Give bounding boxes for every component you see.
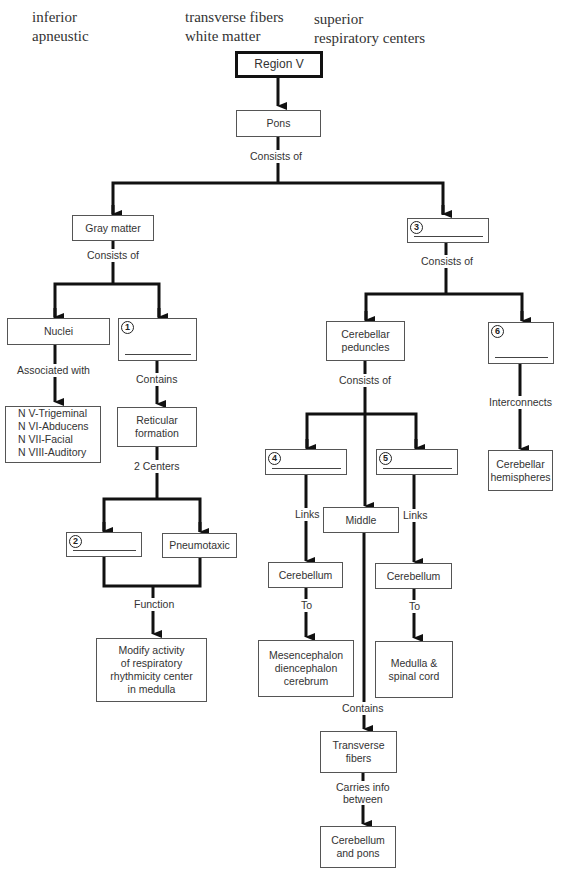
- node-nuclei: Nuclei: [7, 318, 110, 345]
- node-text-line: hemispheres: [490, 471, 550, 484]
- node-cerebellum-and-pons: Cerebellum and pons: [320, 826, 396, 868]
- node-cerebellar-hemispheres: Cerebellar hemispheres: [488, 450, 553, 491]
- edge-label-blank3-consists: Consists of: [420, 255, 474, 268]
- edge-label-to-right: To: [408, 600, 421, 613]
- cranial-nerve-item: N VI-Abducens: [18, 420, 89, 433]
- number-badge-3: 3: [410, 221, 423, 234]
- edge-label-function: Function: [133, 598, 175, 611]
- blank-box-4[interactable]: 4: [265, 449, 347, 475]
- node-text-line: in medulla: [128, 683, 176, 696]
- edge-label-gray-consists: Consists of: [86, 249, 140, 262]
- edge-label-interconnects: Interconnects: [488, 396, 553, 409]
- edge-label-links-right: Links: [402, 509, 429, 522]
- node-text-line: formation: [135, 427, 179, 440]
- edge-label-links-left: Links: [294, 508, 321, 521]
- node-text-line: Medulla &: [391, 657, 438, 670]
- answer-line-1[interactable]: [125, 354, 191, 355]
- node-text-line: diencephalon: [275, 662, 337, 675]
- edge-label-middle-contains: Contains: [341, 702, 384, 715]
- node-text-line: and pons: [336, 847, 379, 860]
- edge-label-line: Carries info: [336, 781, 390, 793]
- node-cerebellar-peduncles: Cerebellar peduncles: [326, 321, 405, 361]
- answer-line-2[interactable]: [73, 550, 136, 551]
- node-text-line: Reticular: [136, 414, 177, 427]
- blank-box-6[interactable]: 6: [488, 322, 554, 364]
- node-cerebellum-right: Cerebellum: [375, 563, 452, 589]
- node-text-line: rhythmicity center: [110, 670, 192, 683]
- edge-label-peduncles-consists: Consists of: [338, 374, 392, 387]
- node-text-line: fibers: [346, 752, 372, 765]
- node-text-line: Modify activity: [119, 644, 185, 657]
- edge-label-2-centers: 2 Centers: [133, 460, 181, 473]
- node-middle: Middle: [323, 507, 399, 533]
- node-text-line: Transverse: [332, 739, 384, 752]
- node-mesencephalon: Mesencephalon diencephalon cerebrum: [258, 640, 354, 697]
- edge-label-carries-info: Carries info between: [335, 781, 391, 805]
- cranial-nerve-item: N V-Trigeminal: [18, 407, 87, 420]
- blank-box-1[interactable]: 1: [118, 318, 197, 361]
- node-text-line: of respiratory: [121, 657, 182, 670]
- answer-line-4[interactable]: [272, 468, 341, 469]
- number-badge-6: 6: [491, 325, 504, 338]
- blank-box-3[interactable]: 3: [407, 218, 489, 243]
- node-region-v: Region V: [235, 51, 323, 78]
- node-text-line: peduncles: [342, 341, 390, 354]
- answer-line-6[interactable]: [495, 357, 548, 358]
- node-function-result: Modify activity of respiratory rhythmici…: [96, 638, 207, 702]
- answer-line-5[interactable]: [383, 468, 452, 469]
- edge-label-contains: Contains: [135, 373, 178, 386]
- node-medulla-spinal-cord: Medulla & spinal cord: [375, 641, 453, 698]
- edge-label-pons-consists: Consists of: [249, 150, 303, 163]
- answer-line-3[interactable]: [414, 236, 483, 237]
- node-text-line: Cerebellum: [331, 834, 385, 847]
- edge-label-associated-with: Associated with: [16, 364, 91, 377]
- cranial-nerve-item: N VII-Facial: [18, 433, 73, 446]
- node-transverse-fibers: Transverse fibers: [320, 731, 397, 773]
- node-text-line: Cerebellar: [341, 328, 389, 341]
- node-reticular-formation: Reticular formation: [117, 407, 197, 447]
- node-gray-matter: Gray matter: [72, 215, 154, 241]
- node-pneumotaxic: Pneumotaxic: [162, 533, 237, 558]
- number-badge-4: 4: [268, 452, 281, 465]
- number-badge-2: 2: [69, 535, 82, 548]
- node-cerebellum-left: Cerebellum: [268, 562, 343, 588]
- edge-label-to-left: To: [300, 599, 313, 612]
- blank-box-2[interactable]: 2: [66, 532, 142, 557]
- node-text-line: cerebrum: [284, 675, 328, 688]
- edge-label-line: between: [336, 793, 390, 805]
- node-pons: Pons: [236, 110, 321, 137]
- node-text-line: Mesencephalon: [269, 649, 343, 662]
- node-text-line: Cerebellar: [496, 458, 544, 471]
- blank-box-5[interactable]: 5: [376, 449, 458, 475]
- node-cranial-nerves: N V-Trigeminal N VI-Abducens N VII-Facia…: [5, 406, 101, 463]
- number-badge-5: 5: [379, 452, 392, 465]
- number-badge-1: 1: [121, 321, 134, 334]
- cranial-nerve-item: N VIII-Auditory: [18, 446, 86, 459]
- node-text-line: spinal cord: [389, 670, 440, 683]
